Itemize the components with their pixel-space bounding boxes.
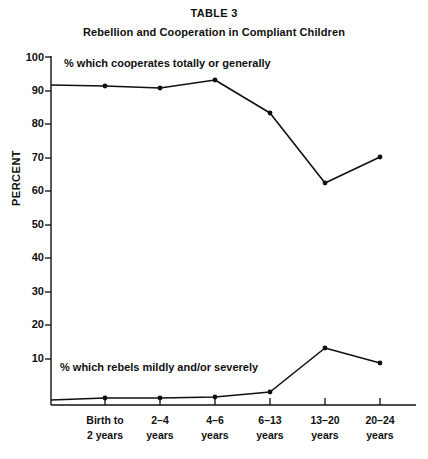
plot-area [0,0,428,459]
x-tick-marks [105,398,380,405]
series-line-cooperates [51,80,380,183]
y-tick-marks [45,57,51,359]
series-markers-cooperates [103,78,383,186]
chart-figure: TABLE 3 Rebellion and Cooperation in Com… [0,0,428,459]
series-markers-rebels [103,346,383,401]
series-line-rebels [51,348,380,400]
